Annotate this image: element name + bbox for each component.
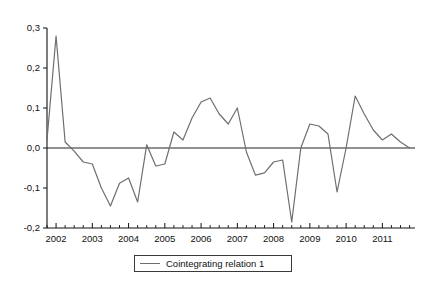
x-tick-label: 2005 bbox=[154, 233, 175, 244]
y-tick-label: 0,2 bbox=[27, 62, 40, 73]
x-tick-label: 2006 bbox=[191, 233, 212, 244]
x-tick-label: 2004 bbox=[118, 233, 139, 244]
x-tick-label: 2011 bbox=[372, 233, 392, 244]
x-tick-label: 2010 bbox=[336, 233, 357, 244]
y-tick-label: 0,3 bbox=[27, 22, 40, 33]
x-tick-label: 2002 bbox=[45, 233, 66, 244]
y-tick-label: 0,1 bbox=[27, 102, 40, 113]
legend-line-swatch bbox=[140, 263, 160, 264]
x-tick-label: 2007 bbox=[227, 233, 248, 244]
chart-figure: 0,30,20,10,0-0,1-0,220022003200420052006… bbox=[0, 0, 426, 282]
chart-legend: Cointegrating relation 1 bbox=[134, 255, 292, 272]
x-tick-label: 2009 bbox=[299, 233, 320, 244]
x-tick-label: 2008 bbox=[263, 233, 284, 244]
y-tick-label: 0,0 bbox=[27, 142, 40, 153]
y-tick-label: -0,2 bbox=[24, 222, 40, 233]
legend-label-cointegrating-relation-1: Cointegrating relation 1 bbox=[166, 259, 264, 269]
series-line-cointegrating-relation-1 bbox=[47, 36, 410, 222]
x-tick-label: 2003 bbox=[82, 233, 103, 244]
y-tick-label: -0,1 bbox=[24, 182, 40, 193]
line-chart-plot: 0,30,20,10,0-0,1-0,220022003200420052006… bbox=[0, 0, 426, 282]
